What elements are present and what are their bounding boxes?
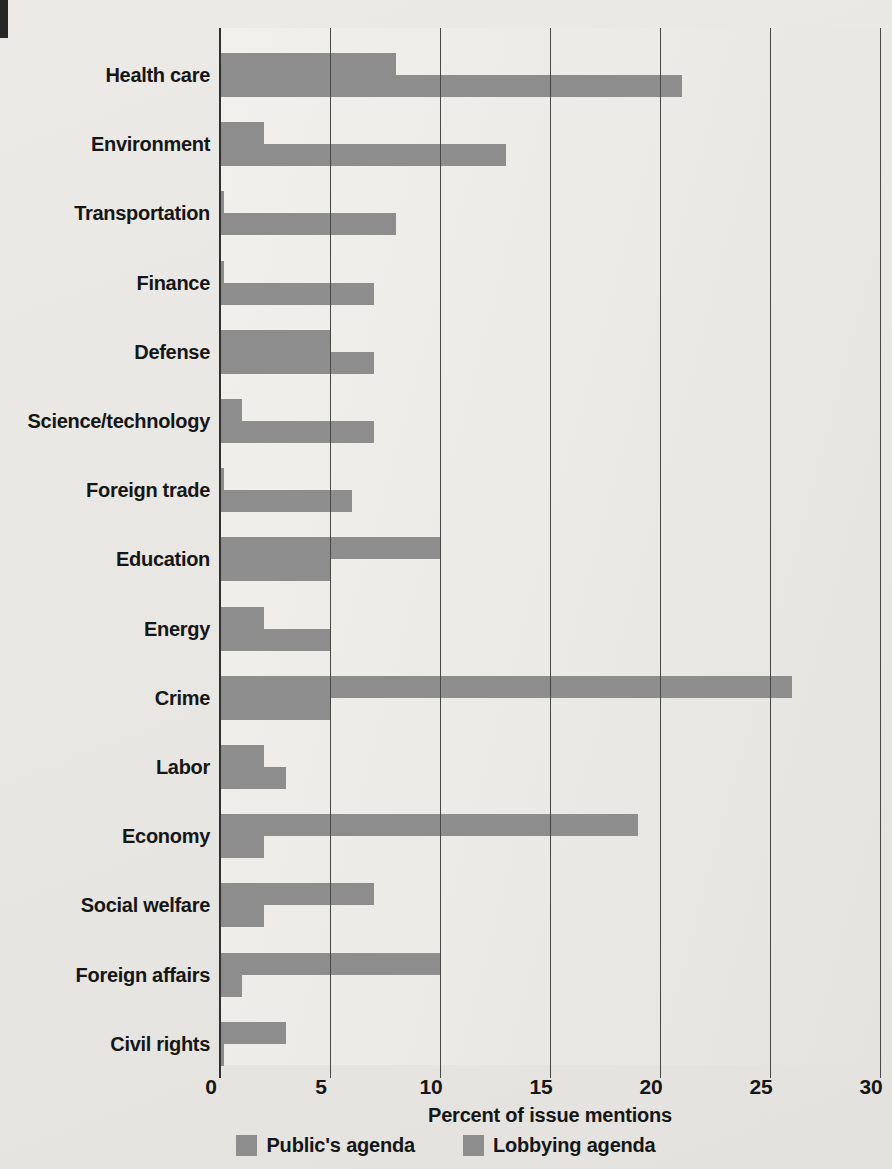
x-tick-label-20: 20: [640, 1076, 663, 1097]
x-axis-title: Percent of issue mentions: [220, 1104, 880, 1127]
category-label-environment: Environment: [4, 134, 210, 154]
bar-lobbying-agenda: [220, 421, 374, 443]
bar-lobbying-agenda: [220, 767, 286, 789]
gridline-25: [770, 28, 771, 1078]
bar-publics-agenda: [220, 883, 374, 905]
legend-label-publics-agenda: Public's agenda: [266, 1134, 414, 1157]
bar-lobbying-agenda: [220, 836, 264, 858]
x-tick-label-5: 5: [315, 1076, 326, 1097]
legend-label-lobbying-agenda: Lobbying agenda: [493, 1134, 656, 1157]
bar-lobbying-agenda: [220, 905, 264, 927]
category-label-education: Education: [4, 549, 210, 569]
bar-publics-agenda: [220, 330, 330, 352]
gridline-5: [330, 28, 331, 1078]
category-label-transportation: Transportation: [4, 203, 210, 223]
bar-lobbying-agenda: [220, 559, 330, 581]
category-label-labor: Labor: [4, 757, 210, 777]
x-tick-label-0: 0: [205, 1076, 216, 1097]
bar-lobbying-agenda: [220, 144, 506, 166]
bar-lobbying-agenda: [220, 975, 242, 997]
category-label-civil-rights: Civil rights: [4, 1034, 210, 1054]
publics-agenda-swatch-icon: [236, 1135, 257, 1156]
bar-publics-agenda: [220, 745, 264, 767]
bar-lobbying-agenda: [220, 698, 330, 720]
category-label-crime: Crime: [4, 688, 210, 708]
category-label-social-welfare: Social welfare: [4, 895, 210, 915]
legend-item-publics-agenda: Public's agenda: [236, 1134, 414, 1157]
bar-publics-agenda: [220, 122, 264, 144]
lobbying-agenda-swatch-icon: [463, 1135, 484, 1156]
category-label-energy: Energy: [4, 619, 210, 639]
category-label-science-technology: Science/technology: [4, 411, 210, 431]
category-label-economy: Economy: [4, 826, 210, 846]
bar-publics-agenda: [220, 607, 264, 629]
bar-lobbying-agenda: [220, 352, 374, 374]
legend: Public's agenda Lobbying agenda: [0, 1134, 892, 1157]
x-tick-label-30: 30: [860, 1076, 883, 1097]
category-label-foreign-trade: Foreign trade: [4, 480, 210, 500]
category-label-foreign-affairs: Foreign affairs: [4, 965, 210, 985]
gridline-20: [660, 28, 661, 1078]
gridline-15: [550, 28, 551, 1078]
legend-item-lobbying-agenda: Lobbying agenda: [463, 1134, 656, 1157]
bar-lobbying-agenda: [220, 490, 352, 512]
scan-edge-mark: [0, 0, 8, 38]
category-label-defense: Defense: [4, 342, 210, 362]
scanned-book-page: Health careEnvironmentTransportationFina…: [0, 0, 892, 1169]
bar-publics-agenda: [220, 399, 242, 421]
bar-publics-agenda: [220, 814, 638, 836]
x-tick-label-25: 25: [750, 1076, 773, 1097]
bar-lobbying-agenda: [220, 75, 682, 97]
category-label-finance: Finance: [4, 273, 210, 293]
bar-lobbying-agenda: [220, 213, 396, 235]
plot-area: Health careEnvironmentTransportationFina…: [220, 28, 880, 1065]
gridline-10: [440, 28, 441, 1078]
x-tick-label-10: 10: [420, 1076, 443, 1097]
bar-publics-agenda: [220, 676, 792, 698]
gridline-30: [880, 28, 881, 1078]
category-label-health-care: Health care: [4, 65, 210, 85]
bar-lobbying-agenda: [220, 629, 330, 651]
x-tick-label-15: 15: [530, 1076, 553, 1097]
bar-lobbying-agenda: [220, 283, 374, 305]
bar-publics-agenda: [220, 53, 396, 75]
bar-publics-agenda: [220, 1022, 286, 1044]
axis-zero-line: [219, 28, 221, 1078]
